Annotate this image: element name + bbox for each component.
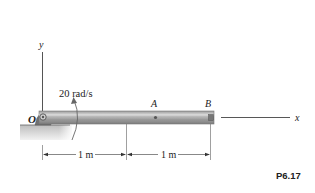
dimension-label-ab: 1 m — [161, 149, 177, 160]
rotating-bar — [39, 111, 214, 124]
point-b-label: B — [205, 98, 211, 109]
figure-id-label: P6.17 — [276, 170, 301, 181]
diagram-canvas: y O A B 20 rad/s x — [0, 0, 315, 193]
point-a-label: A — [150, 98, 158, 109]
pivot-label: O — [28, 113, 36, 125]
point-b-marker — [209, 115, 214, 121]
x-axis: x — [221, 112, 300, 123]
point-a-marker — [154, 116, 157, 119]
angular-velocity-label: 20 rad/s — [59, 88, 93, 99]
dimension-label-oa: 1 m — [78, 149, 94, 160]
y-axis: y — [38, 39, 44, 112]
pivot-pin — [40, 114, 46, 120]
y-axis-label: y — [38, 39, 44, 50]
x-axis-label: x — [294, 112, 300, 123]
ground-support — [20, 125, 72, 140]
